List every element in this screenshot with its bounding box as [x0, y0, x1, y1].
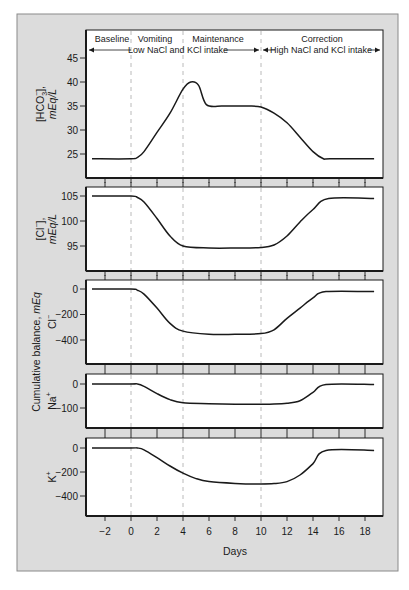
plot-area [86, 187, 383, 271]
y-tick-label: 0 [72, 379, 78, 390]
y-tick-label: −400 [55, 335, 78, 346]
shared-y-axis-label: Cumulative balance, mEq [30, 292, 42, 412]
x-tick-label: 12 [281, 526, 293, 537]
y-tick-label: 35 [67, 101, 79, 112]
y-axis-label-bicarbonate: [HCO3−],mEq/L [33, 86, 58, 122]
y-tick-label: 25 [67, 149, 79, 160]
figure: 2530354045[HCO3−],mEq/L95100105[Cl−],mEq… [0, 0, 409, 590]
y-tick-label: −100 [55, 403, 78, 414]
intake-label-high: High NaCl and KCl intake [270, 45, 372, 55]
y-tick-label: 0 [72, 284, 78, 295]
x-tick-label: 0 [128, 526, 134, 537]
panel-sodium-balance: 0−100Na+ [45, 369, 383, 433]
y-tick-label: −400 [55, 491, 78, 502]
x-tick-label: −2 [99, 526, 111, 537]
x-tick-label: 10 [255, 526, 267, 537]
panel-chloride-concentration: 95100105[Cl−],mEq/L [33, 182, 383, 276]
intake-label-low: Low NaCl and KCl intake [128, 45, 228, 55]
y-tick-label: 40 [67, 77, 79, 88]
x-tick-label: 16 [333, 526, 345, 537]
x-axis-label: Days [223, 545, 247, 557]
plot-area [86, 280, 383, 364]
svg-text:mEq/L: mEq/L [46, 214, 58, 245]
y-axis-label-chloride-concentration: [Cl−],mEq/L [33, 214, 58, 245]
y-tick-label: 95 [67, 241, 79, 252]
y-tick-label: 105 [61, 191, 78, 202]
x-tick-label: 18 [359, 526, 371, 537]
phase-label-baseline: Baseline [95, 34, 130, 44]
y-tick-label: 45 [67, 53, 79, 64]
y-tick-label: 30 [67, 125, 79, 136]
phase-label-vomiting: Vomiting [138, 34, 173, 44]
y-tick-label: 100 [61, 216, 78, 227]
y-tick-label: −200 [55, 467, 78, 478]
plot-area [86, 374, 383, 428]
y-tick-label: 0 [72, 443, 78, 454]
svg-text:[Cl−],: [Cl−], [33, 218, 46, 241]
panel-chloride-balance: 0−200−400Cl− [45, 275, 383, 369]
x-tick-label: 2 [154, 526, 160, 537]
y-tick-label: −200 [55, 309, 78, 320]
x-tick-label: 6 [206, 526, 212, 537]
x-tick-label: 4 [180, 526, 186, 537]
x-tick-label: 14 [307, 526, 319, 537]
x-tick-label: 8 [232, 526, 238, 537]
panel-potassium-balance: 0−200−400K+ [45, 433, 383, 521]
phase-label-maintenance: Maintenance [192, 34, 244, 44]
svg-text:mEq/L: mEq/L [46, 89, 58, 120]
phase-label-correction: Correction [301, 34, 343, 44]
